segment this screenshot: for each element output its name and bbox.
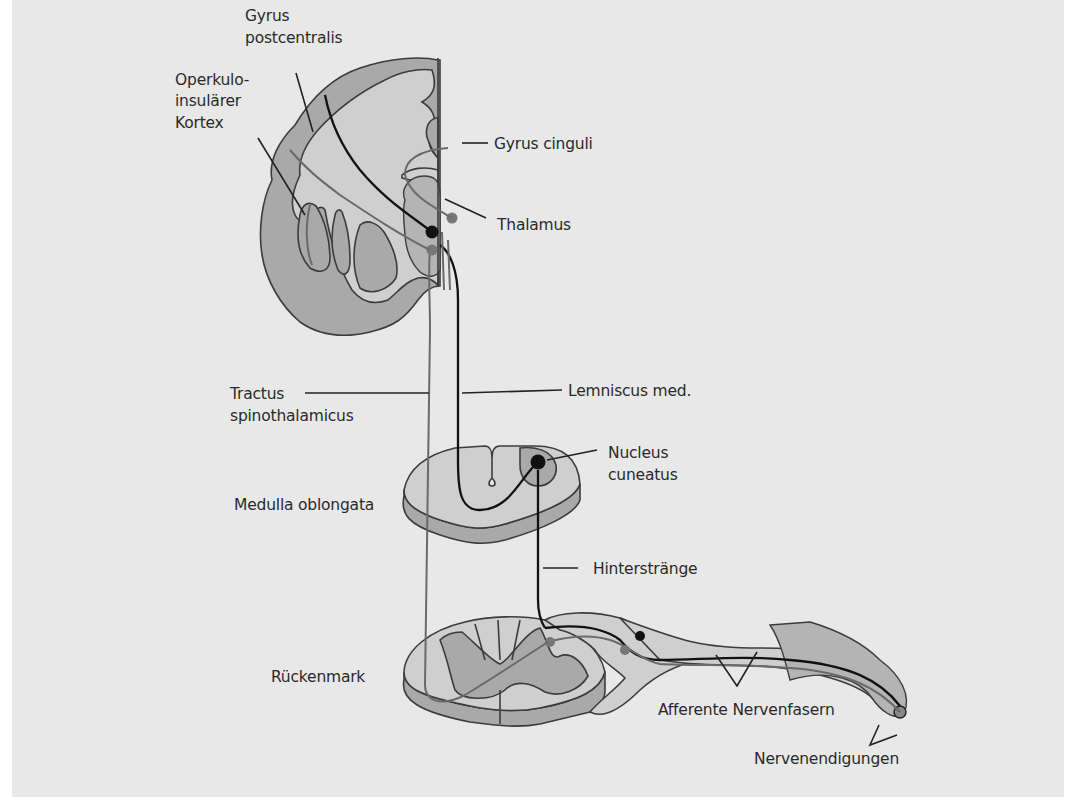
label-gyrus-postcentralis-line1: Gyrus <box>245 7 290 25</box>
label-operkulo-line3: Kortex <box>175 114 224 132</box>
label-gyrus-cinguli: Gyrus cinguli <box>494 135 593 153</box>
leader-nervenendigungen <box>870 725 897 745</box>
label-operkulo-line2: insulärer <box>175 92 242 110</box>
label-rueckenmark: Rückenmark <box>271 668 365 686</box>
label-tractus-line1: Tractus <box>229 385 284 403</box>
dorsal-root-ganglion-neuron <box>635 631 645 641</box>
label-nervenendigungen: Nervenendigungen <box>754 750 899 768</box>
ganglion-neuron <box>620 645 630 655</box>
label-nucleus-line1: Nucleus <box>608 444 668 462</box>
label-medulla-oblongata: Medulla oblongata <box>234 496 374 514</box>
label-hinterstraenge: Hinterstränge <box>593 560 697 578</box>
label-tractus-line2: spinothalamicus <box>230 407 354 425</box>
label-nucleus-line2: cuneatus <box>608 466 678 484</box>
thalamus-descending-fiber <box>442 232 450 290</box>
label-afferente-nervenfasern: Afferente Nervenfasern <box>658 701 835 719</box>
leader-lemniscus-med <box>462 390 562 393</box>
medulla-oblongata <box>403 446 580 543</box>
label-thalamus: Thalamus <box>496 216 571 234</box>
brain-section <box>260 58 440 335</box>
label-gyrus-postcentralis-line2: postcentralis <box>245 29 343 47</box>
label-operkulo-line1: Operkulo- <box>175 71 249 89</box>
somatosensory-pathway-diagram: Gyrus postcentralis Operkulo- insulärer … <box>0 0 1082 812</box>
label-lemniscus-med: Lemniscus med. <box>568 382 691 400</box>
